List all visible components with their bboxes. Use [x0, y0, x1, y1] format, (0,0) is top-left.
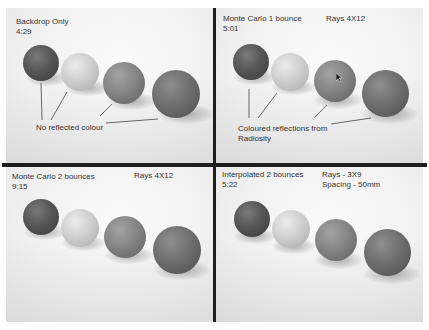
render-time: 5:22	[222, 180, 238, 190]
panel-interpolated-2-bounces: Interpolated 2 bounces 5:22 Rays - 3X9 S…	[216, 167, 423, 322]
sphere-mid	[104, 216, 146, 258]
sphere-dark	[23, 199, 59, 235]
panel-monte-carlo-2-bounces: Monte Carlo 2 bounces 9:15 Rays 4X12	[6, 167, 213, 322]
sphere-light	[61, 209, 99, 247]
sphere-mid	[315, 219, 357, 261]
rays-setting: Rays 4X12	[134, 171, 173, 181]
panel-title: Interpolated 2 bounces	[222, 170, 303, 180]
annotation-text: No reflected colour	[36, 123, 103, 133]
sphere-mid-dark	[364, 229, 411, 276]
spacing-setting: Spacing - 50mm	[322, 180, 380, 190]
sphere-mid-dark	[153, 226, 201, 274]
panel-backdrop-only: Backdrop Only 4:29 No reflected colour	[6, 8, 213, 163]
sphere-dark	[234, 201, 270, 237]
horizontal-divider	[2, 163, 427, 167]
rays-setting: Rays - 3X9	[322, 170, 362, 180]
annotation-leader-lines	[6, 8, 213, 163]
panel-monte-carlo-1-bounce: Monte Carlo 1 bounce 5:01 Rays 4X12 Colo…	[216, 8, 423, 163]
annotation-text: Coloured reflections from Radiosity	[238, 124, 327, 143]
render-time: 9:15	[12, 182, 28, 192]
panel-title: Monte Carlo 2 bounces	[12, 172, 95, 182]
sphere-light	[272, 210, 310, 248]
